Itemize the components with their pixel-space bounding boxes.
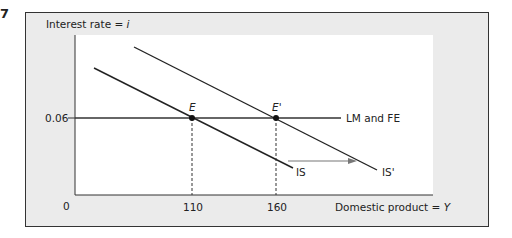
x-tick-label-160: 160	[267, 201, 287, 213]
origin-label: 0	[63, 200, 70, 212]
x-tick-label-110: 110	[183, 201, 203, 213]
point-e-prime-label: E'	[272, 101, 282, 113]
y-axis-label: Interest rate = i	[46, 18, 130, 30]
is-prime-label: IS'	[382, 166, 395, 178]
y-tick-label: 0.06	[45, 112, 69, 124]
is-label: IS	[296, 166, 306, 178]
point-e-label: E	[189, 101, 196, 113]
x-axis-label: Domestic product = Y	[335, 201, 452, 213]
point-e	[189, 115, 195, 121]
point-e-prime	[273, 115, 279, 121]
is-lm-diagram: Interest rate = i Domestic product = Y 0…	[0, 0, 512, 238]
lm-fe-label: LM and FE	[346, 112, 400, 124]
